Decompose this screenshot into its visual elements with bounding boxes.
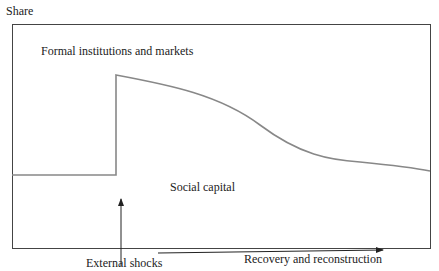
external-shocks-label: External shocks xyxy=(86,256,162,271)
boundary-curve xyxy=(12,75,430,175)
recovery-label: Recovery and reconstruction xyxy=(244,252,382,267)
lower-region-label: Social capital xyxy=(170,180,235,195)
upper-region-label: Formal institutions and markets xyxy=(41,44,193,59)
y-axis-label: Share xyxy=(6,4,33,19)
